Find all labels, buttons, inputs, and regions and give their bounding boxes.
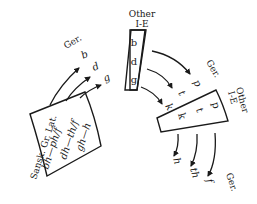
- germanic-target-g: g: [101, 71, 111, 84]
- phoneme-k: k: [176, 112, 188, 122]
- germanic-target-t: t: [176, 89, 188, 99]
- box-label-other-line1: Other: [129, 9, 156, 19]
- germanic-target-d: d: [90, 60, 100, 73]
- box-label-ie-line2: I-E: [135, 19, 148, 29]
- germanic-target-p: p: [191, 78, 204, 90]
- box-sanskrit-greek-latin: Sansk. Gr. Lat. bh—ph/f dh—th/f gh—h: [28, 92, 101, 181]
- arrow-icon: [191, 134, 197, 166]
- grimms-law-diagram: Sansk. Gr. Lat. bh—ph/f dh—th/f gh—h Ger…: [0, 0, 257, 204]
- phoneme-g: g: [131, 74, 138, 85]
- phoneme-b: b: [131, 37, 137, 48]
- arrow-icon: [80, 85, 101, 98]
- germanic-target-f: f: [204, 176, 217, 186]
- arrow-icon: [152, 51, 190, 74]
- germanic-target-h: h: [171, 156, 183, 166]
- shift-label-germanic-2: Ger.: [204, 58, 222, 79]
- shift-label-germanic-1: Ger.: [62, 33, 83, 51]
- arrow-icon: [147, 69, 172, 88]
- box-other-ie-voiced: Other I-E b d g: [125, 9, 156, 90]
- arrow-icon: [141, 87, 162, 104]
- phoneme-d: d: [131, 56, 138, 67]
- germanic-target-th: th: [188, 166, 202, 179]
- phoneme-t: t: [194, 107, 206, 114]
- arrow-icon: [208, 133, 215, 176]
- arrow-icon: [174, 134, 178, 156]
- arrow-icon: [66, 77, 90, 101]
- shift-label-germanic-3: Ger.: [224, 172, 239, 193]
- phoneme-p: p: [210, 101, 222, 110]
- germanic-target-b: b: [79, 48, 89, 61]
- box-label-ie-line2-right: I-E: [226, 90, 239, 105]
- shift-arrows-3: f th h Ger.: [171, 133, 239, 193]
